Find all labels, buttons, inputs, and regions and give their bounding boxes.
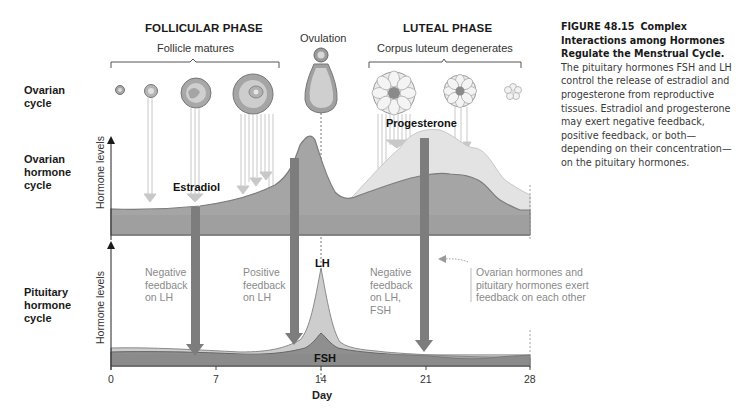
follicular-phase-title: FOLLICULAR PHASE	[145, 22, 263, 34]
x-tick-7: 7	[213, 373, 219, 385]
x-tick-21: 21	[420, 373, 432, 385]
x-tick-28: 28	[524, 373, 536, 385]
row-label-ovarian-hormone-cycle: Ovarian hormone cycle	[24, 153, 94, 192]
follicle-icons	[116, 74, 274, 114]
negative-feedback-lh-text: Negative feedback on LH	[145, 266, 188, 304]
figure-caption: FIGURE 48.15 Complex Interactions among …	[561, 20, 741, 170]
row-label-pituitary-hormone-cycle: Pituitary hormone cycle	[24, 286, 94, 325]
progesterone-label: Progesterone	[386, 117, 457, 129]
bottom-y-axis-label: Hormone levels	[94, 271, 106, 344]
corpus-luteum-icons	[372, 71, 522, 115]
x-tick-0: 0	[108, 373, 114, 385]
lh-label: LH	[315, 257, 330, 269]
follicular-brace	[111, 59, 279, 68]
x-tick-14: 14	[315, 373, 327, 385]
figure-number: FIGURE 48.15	[561, 21, 634, 32]
top-y-axis-label: Hormone levels	[94, 136, 106, 209]
ovulation-label: Ovulation	[300, 32, 346, 44]
luteal-phase-title: LUTEAL PHASE	[403, 22, 492, 34]
fsh-label: FSH	[314, 352, 336, 364]
negative-feedback-lh-fsh-text: Negative feedback on LH, FSH	[370, 266, 413, 316]
luteal-brace	[369, 59, 521, 68]
follicular-phase-subtitle: Follicle matures	[157, 42, 234, 54]
luteal-phase-subtitle: Corpus luteum degenerates	[377, 42, 513, 54]
row-label-ovarian-cycle: Ovarian cycle	[24, 84, 94, 110]
note-pointer-arrow	[438, 255, 471, 302]
figure-body: The pituitary hormones FSH and LH contro…	[561, 62, 732, 168]
x-axis-label: Day	[312, 389, 332, 401]
estradiol-label: Estradiol	[173, 181, 220, 193]
positive-feedback-lh-text: Positive feedback on LH	[243, 266, 286, 304]
ovulation-follicle-icon	[305, 48, 337, 113]
x-axis-ticks	[111, 366, 530, 370]
feedback-interaction-note: Ovarian hormones and pituitary hormones …	[476, 266, 589, 304]
